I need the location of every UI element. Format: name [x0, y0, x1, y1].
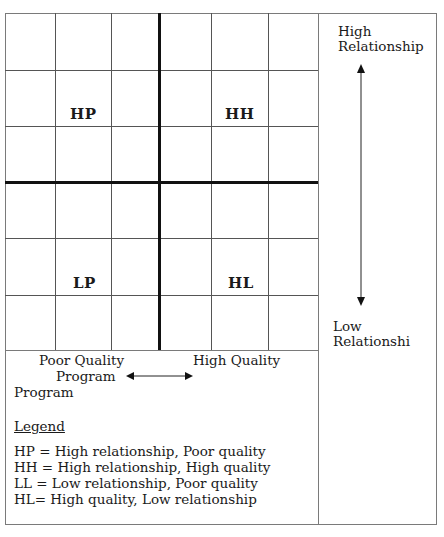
relationship-arrow-icon — [357, 64, 365, 306]
quality-arrow-icon — [126, 372, 193, 380]
arrows-layer — [0, 0, 444, 537]
